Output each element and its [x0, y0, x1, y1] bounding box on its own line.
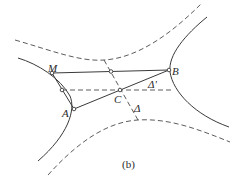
lower-dashed-curve [48, 120, 230, 175]
label-delta: Δ [133, 102, 140, 114]
label-M: M [47, 62, 58, 74]
label-A: A [61, 107, 69, 119]
upper-dashed-curve [15, 3, 202, 60]
point-on-MA [60, 88, 64, 92]
point-C [118, 88, 122, 92]
point-A [72, 107, 76, 111]
label-delta-prime: Δ' [147, 78, 157, 90]
hyperbola-diagram: M B A C Δ' Δ (b) [0, 0, 238, 187]
label-B: B [172, 65, 179, 77]
point-B [167, 68, 171, 72]
figure-caption: (b) [122, 158, 135, 171]
label-C: C [114, 93, 122, 105]
point-midpoint-MB [109, 70, 113, 74]
